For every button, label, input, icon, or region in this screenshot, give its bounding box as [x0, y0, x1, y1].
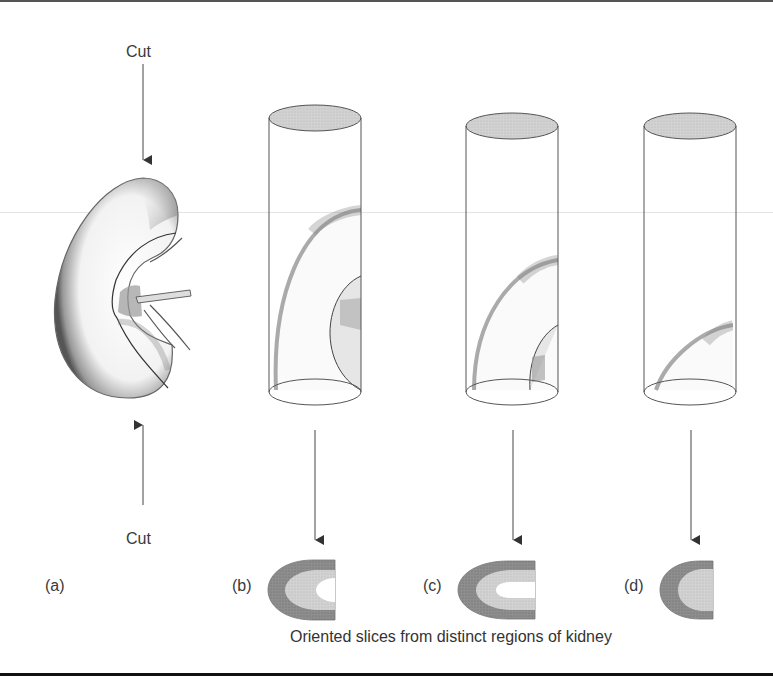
- kidney-slicing-diagram: Cut Cut (a) (b) (c) (d) Oriented slices …: [0, 0, 773, 689]
- diagram-svg: [0, 0, 773, 689]
- bottom-border-line: [0, 673, 773, 676]
- cut-label-bottom: Cut: [126, 530, 151, 548]
- cylinder-d: [644, 113, 736, 540]
- slice-b: [268, 560, 335, 620]
- cylinder-b: [269, 105, 361, 540]
- panel-label-a: (a): [45, 577, 65, 595]
- cut-label-top: Cut: [126, 43, 151, 61]
- panel-label-c: (c): [423, 577, 442, 595]
- slice-d: [660, 561, 713, 619]
- figure-caption: Oriented slices from distinct regions of…: [290, 628, 612, 646]
- cylinder-c: [466, 113, 558, 540]
- panel-label-b: (b): [232, 577, 252, 595]
- kidney-illustration: [54, 178, 191, 398]
- panel-label-d: (d): [624, 577, 644, 595]
- slice-c: [458, 561, 535, 619]
